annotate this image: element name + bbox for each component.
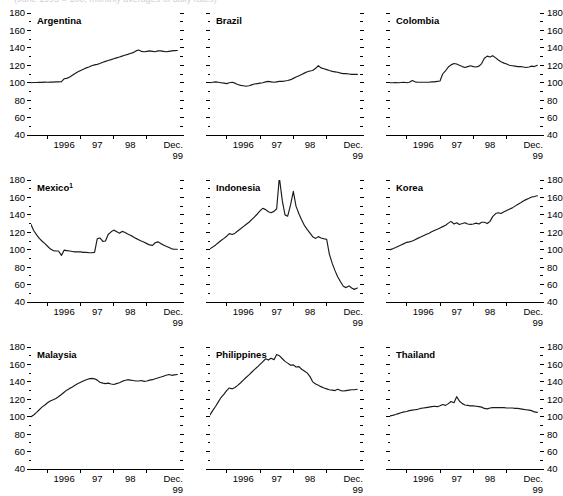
x-tick-label: 97 (451, 306, 462, 317)
y-axis-label-left: 80 (14, 429, 25, 440)
panel-title: Thailand (396, 349, 435, 360)
x-end-label-month: Dec. (523, 139, 543, 150)
y-axis-label-left: 140 (9, 209, 25, 220)
x-end-label-year: 99 (172, 484, 183, 495)
series-line-mexico (31, 224, 177, 255)
panel-title-footnote-marker: 1 (69, 182, 73, 189)
y-axis-label-right: 120 (547, 394, 563, 405)
x-end-label-year: 99 (532, 484, 543, 495)
y-axis-label-left: 60 (14, 112, 25, 123)
y-axis-label-right: 180 (547, 341, 563, 352)
series-line-argentina (31, 50, 177, 83)
panel-title: Korea (396, 182, 424, 193)
x-tick-label: 97 (92, 306, 103, 317)
x-tick-label: 97 (451, 139, 462, 150)
y-tick-marks (386, 13, 544, 135)
x-tick-label: 98 (485, 473, 496, 484)
x-tick-marks (407, 302, 507, 306)
panel-malaysia: 19969798Dec.99406080100120140160180Malay… (9, 341, 184, 495)
panel-colombia: 19969798Dec.99406080100120140160180Colom… (386, 7, 563, 161)
series-line-thailand (390, 397, 537, 416)
series-line-malaysia (31, 374, 177, 416)
y-axis-label-right: 140 (547, 209, 563, 220)
x-tick-marks (48, 135, 147, 139)
x-end-label-month: Dec. (163, 473, 183, 484)
y-axis-label-right: 120 (547, 227, 563, 238)
y-axis-label-left: 140 (9, 376, 25, 387)
x-tick-label: 98 (125, 473, 136, 484)
y-axis-label-right: 80 (547, 95, 558, 106)
series-line-colombia (390, 56, 537, 83)
y-axis-label-right: 160 (547, 359, 563, 370)
y-axis-label-right: 80 (547, 262, 558, 273)
x-end-label-month: Dec. (343, 139, 363, 150)
y-axis-label-left: 180 (9, 174, 25, 185)
x-tick-label: 98 (125, 139, 136, 150)
y-axis-label-left: 60 (14, 446, 25, 457)
panel-thailand: 19969798Dec.99406080100120140160180Thail… (386, 341, 563, 495)
x-tick-label: 1996 (54, 306, 75, 317)
y-axis-label-right: 120 (547, 60, 563, 71)
y-tick-marks (206, 180, 364, 302)
panel-title: Argentina (37, 15, 82, 26)
x-end-label-year: 99 (532, 150, 543, 161)
x-tick-label: 98 (305, 306, 316, 317)
panel-title: Malaysia (37, 349, 77, 360)
y-axis-label-right: 60 (547, 279, 558, 290)
x-tick-label: 97 (92, 139, 103, 150)
x-end-label-month: Dec. (163, 139, 183, 150)
x-end-label-year: 99 (172, 317, 183, 328)
y-axis-label-left: 160 (9, 359, 25, 370)
y-tick-marks (27, 347, 184, 469)
y-axis-label-left: 140 (9, 42, 25, 53)
x-tick-label: 98 (485, 306, 496, 317)
y-axis-label-right: 60 (547, 112, 558, 123)
x-tick-marks (227, 135, 327, 139)
x-tick-label: 1996 (233, 473, 254, 484)
x-tick-label: 1996 (413, 139, 434, 150)
y-axis-label-left: 160 (9, 192, 25, 203)
x-tick-label: 1996 (413, 306, 434, 317)
y-axis-label-left: 120 (9, 60, 25, 71)
x-tick-label: 97 (271, 473, 282, 484)
panel-title: Indonesia (216, 182, 261, 193)
x-tick-label: 1996 (413, 473, 434, 484)
y-axis-label-right: 40 (547, 129, 558, 140)
y-axis-label-right: 80 (547, 429, 558, 440)
panel-philippines: 19969798Dec.99Philippines (206, 347, 364, 495)
panel-brazil: 19969798Dec.99Brazil (206, 13, 364, 161)
y-axis-label-left: 80 (14, 262, 25, 273)
x-tick-label: 1996 (54, 473, 75, 484)
x-end-label-year: 99 (352, 484, 363, 495)
exchange-rate-panel-figure: (June 1995 = 100; monthly averages of da… (0, 0, 563, 496)
y-axis-label-left: 120 (9, 394, 25, 405)
panel-title: Brazil (216, 15, 242, 26)
y-tick-marks (386, 180, 544, 302)
panel-mexico: 19969798Dec.99406080100120140160180Mexic… (9, 174, 184, 328)
y-axis-label-right: 40 (547, 296, 558, 307)
x-tick-label: 97 (92, 473, 103, 484)
x-tick-label: 97 (271, 139, 282, 150)
y-axis-label-left: 180 (9, 7, 25, 18)
x-end-label-month: Dec. (523, 306, 543, 317)
x-tick-marks (227, 469, 327, 473)
x-tick-marks (407, 135, 507, 139)
x-end-label-month: Dec. (343, 306, 363, 317)
y-tick-marks (206, 13, 364, 135)
series-line-korea (390, 196, 537, 250)
small-multiples-grid: 19969798Dec.99406080100120140160180Argen… (0, 0, 563, 496)
y-axis-label-left: 40 (14, 129, 25, 140)
x-tick-label: 98 (485, 139, 496, 150)
x-end-label-month: Dec. (523, 473, 543, 484)
y-axis-label-right: 140 (547, 376, 563, 387)
x-end-label-year: 99 (352, 150, 363, 161)
y-axis-label-right: 180 (547, 174, 563, 185)
y-axis-label-right: 60 (547, 446, 558, 457)
panel-indonesia: 19969798Dec.99Indonesia (206, 177, 364, 328)
y-axis-label-left: 100 (9, 411, 25, 422)
y-axis-label-right: 140 (547, 42, 563, 53)
x-end-label-year: 99 (172, 150, 183, 161)
x-tick-label: 1996 (233, 306, 254, 317)
x-tick-marks (407, 469, 507, 473)
charts-canvas: 19969798Dec.99406080100120140160180Argen… (0, 0, 563, 496)
